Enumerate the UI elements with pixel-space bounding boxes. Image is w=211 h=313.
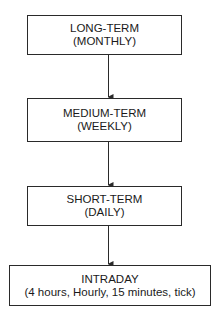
node-title: LONG-TERM: [70, 22, 139, 35]
node-subtitle: (DAILY): [84, 206, 124, 219]
node-subtitle: (MONTHLY): [73, 35, 136, 48]
node-subtitle: (4 hours, Hourly, 15 minutes, tick): [24, 286, 195, 299]
node-title: SHORT-TERM: [67, 193, 143, 206]
node-subtitle: (WEEKLY): [77, 120, 132, 133]
node-title: MEDIUM-TERM: [63, 107, 146, 120]
node-intraday: INTRADAY (4 hours, Hourly, 15 minutes, t…: [9, 265, 211, 306]
node-title: INTRADAY: [81, 273, 138, 286]
node-short-term: SHORT-TERM (DAILY): [27, 186, 182, 226]
node-medium-term: MEDIUM-TERM (WEEKLY): [27, 98, 182, 142]
node-long-term: LONG-TERM (MONTHLY): [27, 15, 182, 55]
